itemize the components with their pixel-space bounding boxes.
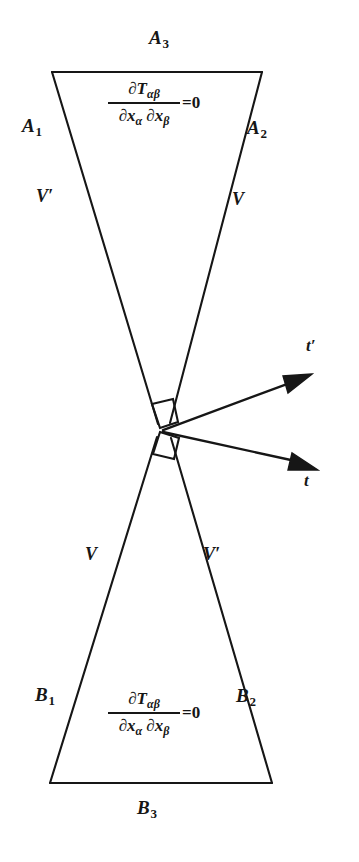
upper-cone-top-letter: A — [149, 27, 162, 48]
upper-numerator-tensor-symbol: T — [137, 79, 147, 98]
lower-cone-velocity-left-letter: V — [85, 544, 97, 564]
axis-arrow-t — [163, 432, 318, 470]
lower-cone-bottom-letter: B — [137, 797, 150, 818]
upper-cone-equation: ∂Tαβ ∂xα∂xβ =0 — [108, 80, 200, 127]
lower-denominator-x-1: x — [127, 716, 136, 735]
upper-equation-fraction: ∂Tαβ ∂xα∂xβ — [108, 80, 180, 127]
lower-cone-velocity-left-label: V — [85, 545, 97, 563]
lower-cone-left-subscript: 1 — [48, 693, 55, 708]
axis-label-t: t — [304, 472, 309, 489]
axis-label-t-letter: t — [304, 471, 309, 490]
axis-arrow-t-shaft — [163, 432, 300, 462]
lower-cone-velocity-right-prime: ′ — [215, 544, 220, 564]
lower-cone-velocity-right-label: V′ — [203, 545, 220, 563]
lower-equation-numerator: ∂Tαβ — [126, 690, 162, 712]
lower-denominator-index-1: α — [136, 724, 143, 738]
axis-arrow-t-prime — [163, 374, 312, 430]
upper-cone-right-label: A2 — [247, 118, 267, 140]
upper-denominator-x-2: x — [155, 106, 164, 125]
lower-cone-left-label: B1 — [35, 685, 55, 707]
lower-numerator-tensor-symbol: T — [137, 689, 147, 708]
lower-equation-rhs: =0 — [182, 703, 200, 724]
upper-cone-left-subscript: 1 — [35, 124, 42, 139]
axis-arrow-t-prime-shaft — [163, 381, 295, 430]
lower-denominator-partial-1: ∂ — [119, 716, 127, 735]
lower-cone-equation: ∂Tαβ ∂xα∂xβ =0 — [108, 690, 200, 737]
lower-cone-right-label: B2 — [236, 686, 256, 708]
upper-denominator-index-2: β — [163, 114, 169, 128]
upper-denominator-partial-1: ∂ — [119, 106, 127, 125]
lower-cone-velocity-right-letter: V — [203, 544, 215, 564]
lower-cone-left-letter: B — [35, 684, 48, 705]
upper-denominator-partial-2: ∂ — [146, 106, 154, 125]
lower-numerator-partial-symbol: ∂ — [128, 689, 136, 708]
upper-numerator-indices: αβ — [147, 87, 160, 101]
upper-cone-top-subscript: 3 — [162, 36, 169, 51]
lower-cone-bottom-subscript: 3 — [150, 806, 157, 821]
upper-cone-left-letter: A — [22, 115, 35, 136]
lower-cone-bottom-label: B3 — [137, 798, 157, 820]
lower-denominator-x-2: x — [155, 716, 164, 735]
upper-cone-velocity-right-letter: V — [232, 189, 244, 209]
light-cone-figure: A3 A1 A2 V′ V ∂Tαβ ∂xα∂xβ =0 t′ t V — [0, 0, 359, 862]
lower-cone-right-subscript: 2 — [249, 694, 256, 709]
upper-cone-velocity-left-prime: ′ — [48, 186, 53, 206]
lower-cone-right-letter: B — [236, 685, 249, 706]
upper-cone-right-subscript: 2 — [260, 126, 267, 141]
upper-cone-top-label: A3 — [149, 28, 169, 50]
upper-denominator-x-1: x — [127, 106, 136, 125]
lower-numerator-indices: αβ — [147, 697, 160, 711]
apex-parallelogram-upper — [152, 399, 178, 428]
lower-equation-denominator: ∂xα∂xβ — [117, 714, 172, 737]
upper-denominator-index-1: α — [136, 114, 143, 128]
upper-equation-rhs: =0 — [182, 93, 200, 114]
upper-equation-denominator: ∂xα∂xβ — [117, 104, 172, 127]
axis-arrow-t-prime-head — [283, 374, 312, 393]
upper-cone-right-letter: A — [247, 117, 260, 138]
upper-cone-velocity-left-label: V′ — [36, 187, 53, 205]
lower-denominator-index-2: β — [163, 724, 169, 738]
upper-cone-velocity-left-letter: V — [36, 186, 48, 206]
upper-cone-left-label: A1 — [22, 116, 42, 138]
upper-cone-velocity-right-label: V — [232, 190, 244, 208]
axis-label-t-prime: t′ — [306, 337, 316, 354]
axis-label-t-prime-mark: ′ — [311, 336, 316, 355]
upper-numerator-partial-symbol: ∂ — [128, 79, 136, 98]
upper-equation-numerator: ∂Tαβ — [126, 80, 162, 102]
axis-arrow-t-head — [288, 453, 318, 470]
lower-equation-fraction: ∂Tαβ ∂xα∂xβ — [108, 690, 180, 737]
lower-denominator-partial-2: ∂ — [146, 716, 154, 735]
